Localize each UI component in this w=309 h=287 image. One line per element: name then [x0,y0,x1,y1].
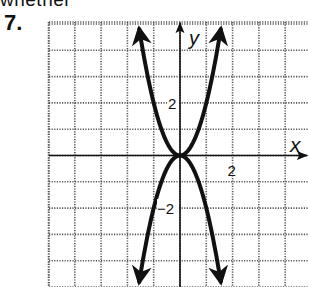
y-axis-label: y [187,27,200,49]
axis-labels: yx22−2 [157,27,302,217]
x-axis-label: x [289,133,302,156]
y-tick-label: 2 [168,95,176,112]
coordinate-graph: yx22−2 [0,0,309,287]
y-tick-label: −2 [157,200,174,217]
x-tick-label: 2 [228,162,236,179]
